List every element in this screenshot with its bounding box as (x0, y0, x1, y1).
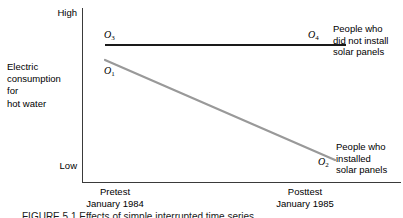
observation-o4-sub: 4 (315, 34, 319, 42)
observation-o3-sub: 3 (111, 34, 115, 42)
observation-label-o1: O1 (104, 66, 115, 77)
x-tick-posttest-line-1: Posttest (250, 186, 360, 198)
observation-label-o4: O4 (308, 30, 319, 41)
figure-container: High Low Electric consumption for hot wa… (0, 0, 403, 218)
series-note-bottom-line-1: People who (336, 141, 387, 153)
x-tick-posttest-line-2: January 1985 (250, 198, 360, 210)
x-tick-pretest-line-1: Pretest (60, 186, 170, 198)
observation-o1-sub: 1 (111, 70, 115, 78)
series-note-bottom-line-3: solar panels (336, 164, 387, 176)
series-note-top-line-2: did not install (333, 35, 388, 47)
series-note-top-line-1: People who (333, 23, 388, 35)
series-note-no-solar-panels: People who did not install solar panels (333, 23, 388, 58)
figure-caption: FIGURE 5.1 Effects of simple interrupted… (22, 211, 403, 218)
series-note-installed-solar-panels: People who installed solar panels (336, 141, 387, 176)
x-tick-pretest-line-2: January 1984 (60, 198, 170, 210)
observation-o2-sub: 2 (325, 161, 329, 169)
x-tick-label-posttest: Posttest January 1985 (250, 186, 360, 210)
series-line-installed-solar-panels (105, 60, 335, 160)
observation-label-o3: O3 (104, 30, 115, 41)
series-note-top-line-3: solar panels (333, 46, 388, 58)
observation-label-o2: O2 (318, 157, 329, 168)
x-tick-label-pretest: Pretest January 1984 (60, 186, 170, 210)
series-note-bottom-line-2: installed (336, 153, 387, 165)
